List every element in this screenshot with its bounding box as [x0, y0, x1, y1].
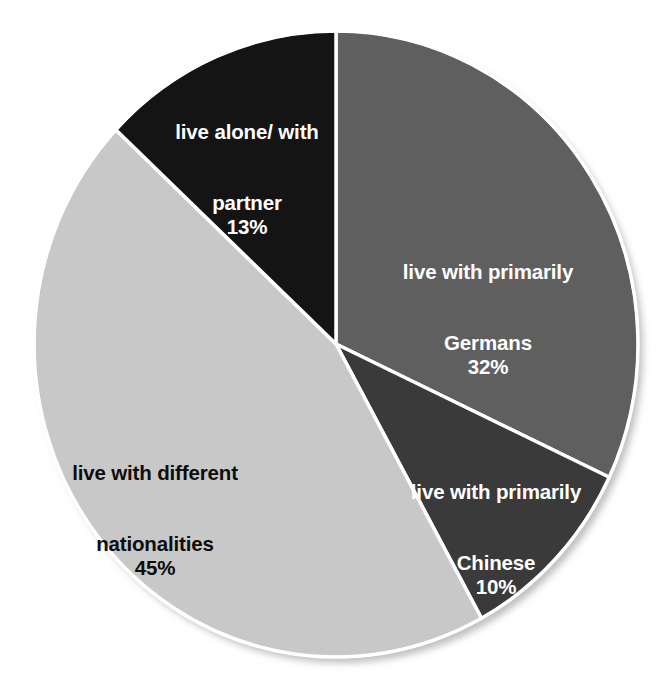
pie-chart-svg [0, 0, 671, 690]
pie-chart: live with primarily Germans 32% live wit… [0, 0, 671, 690]
pie-slice-group [34, 31, 638, 657]
